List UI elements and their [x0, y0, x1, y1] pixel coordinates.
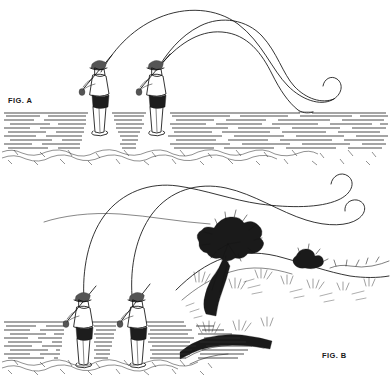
waders-b-1 [76, 327, 93, 341]
fly-casting-illustration: FIG. A [0, 0, 391, 383]
waders-b-2 [130, 327, 147, 341]
fig-a-label: FIG. A [8, 96, 32, 105]
page-background [0, 0, 391, 383]
fig-b-label: FIG. B [322, 351, 347, 360]
waders-a-1 [92, 95, 109, 109]
illustration-canvas: FIG. A [0, 0, 391, 383]
reel-a-1 [79, 89, 85, 96]
reel-a-2 [136, 89, 142, 96]
waders-a-2 [149, 95, 166, 109]
